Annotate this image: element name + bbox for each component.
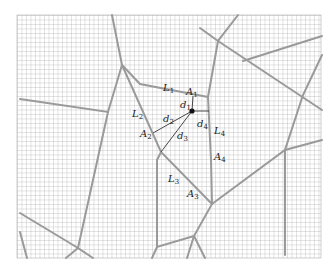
- voronoi-diagram: L1 A1 d1 L2 d2 d4 A2 d3 L4 A4 L3 A3: [0, 0, 333, 272]
